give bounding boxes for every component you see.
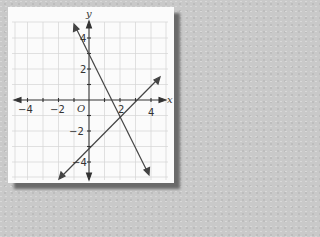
x-axis <box>14 98 166 103</box>
x-axis-label: x <box>167 94 173 105</box>
x-tick-label-2: 2 <box>118 104 124 115</box>
grid <box>12 22 168 180</box>
coordinate-plane: x y O −4 −2 2 4 4 2 −2 −4 <box>0 0 185 194</box>
y-axis-label: y <box>85 8 92 19</box>
origin-label: O <box>77 103 85 114</box>
y-tick-label-4: 4 <box>80 33 86 44</box>
y-tick-label-neg2: −2 <box>69 126 84 137</box>
x-tick-label-neg2: −2 <box>50 104 65 115</box>
y-tick-label-neg4: −4 <box>72 157 87 168</box>
x-tick-label-neg4: −4 <box>18 104 33 115</box>
y-tick-label-2: 2 <box>80 64 86 75</box>
x-tick-label-4: 4 <box>148 107 154 118</box>
